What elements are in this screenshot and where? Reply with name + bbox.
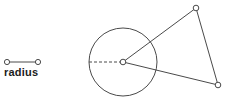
edge-center-to-top [123, 8, 196, 62]
triangle-bottom-right-vertex-icon [215, 82, 221, 88]
edge-top-to-bottom-right [196, 8, 218, 85]
geometry-figure-svg [0, 0, 228, 100]
legend-endpoint-left-icon [4, 59, 9, 64]
circle-center-vertex-icon [120, 59, 126, 65]
geometry-figure-root: radius [0, 0, 228, 100]
legend-endpoint-right-icon [35, 59, 40, 64]
triangle-top-vertex-icon [193, 5, 199, 11]
radius-label: radius [4, 66, 38, 78]
radius-legend-group [4, 59, 40, 64]
edge-center-to-bottom-right [123, 62, 218, 85]
circle-triangle-group [89, 5, 221, 96]
